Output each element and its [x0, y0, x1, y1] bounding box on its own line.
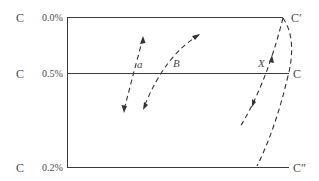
arrow-up-icon	[269, 55, 274, 63]
row-letter-middle: C	[16, 67, 24, 81]
row-letter-top: C	[16, 11, 24, 25]
diagram-canvas: C C C 0.0% 0.5% 0.2% C′ C C″ a B X	[0, 0, 319, 181]
curve-x	[240, 18, 283, 127]
right-label-bottom: C″	[293, 161, 306, 175]
curve-b	[143, 34, 200, 110]
curve-label-x: X	[257, 57, 266, 69]
arrow-down-icon	[122, 105, 128, 113]
percent-label-bottom: 0.2%	[42, 162, 63, 173]
right-label-top: C′	[291, 11, 302, 25]
arrow-up-icon	[192, 34, 200, 40]
outer-curve-path	[257, 18, 292, 166]
arrow-up-icon	[140, 36, 146, 44]
curve-label-a: a	[137, 58, 143, 70]
curve-x-path	[240, 18, 283, 127]
curve-b-path	[144, 35, 199, 107]
percent-label-top: 0.0%	[42, 12, 63, 23]
arrow-down-icon	[143, 102, 148, 110]
right-label-middle: C	[293, 67, 301, 81]
row-letter-bottom: C	[16, 161, 24, 175]
curve-label-b: B	[173, 57, 180, 69]
percent-label-middle: 0.5%	[42, 68, 63, 79]
curve-a	[122, 36, 146, 113]
